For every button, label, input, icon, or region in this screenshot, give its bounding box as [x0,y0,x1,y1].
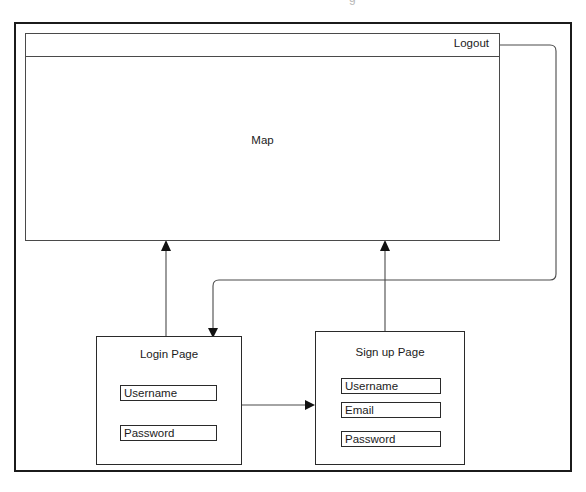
map-titlebar: Logout [26,34,499,57]
signup-username-field[interactable]: Username [341,378,441,394]
login-page-title: Login Page [97,348,241,360]
map-area-label: Map [26,134,499,146]
signup-page-title: Sign up Page [316,346,464,358]
map-window: Logout Map [25,33,500,241]
diagram-canvas: g Logout Map Login Page Username Passwor… [0,0,586,492]
signup-page-box: Sign up Page Username Email Password [315,331,465,465]
login-password-field[interactable]: Password [120,425,217,441]
signup-password-field[interactable]: Password [341,431,441,447]
signup-email-field[interactable]: Email [341,402,441,418]
logout-button[interactable]: Logout [454,37,489,49]
login-username-field[interactable]: Username [120,385,217,401]
login-page-box: Login Page Username Password [96,336,242,465]
clipped-top-glyph: g [349,0,369,5]
